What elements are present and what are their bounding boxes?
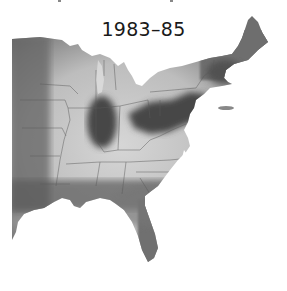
long-island [218,106,234,110]
land-area [0,10,287,270]
midwest-hotspot [87,96,117,148]
eastern-us-map [0,0,287,291]
